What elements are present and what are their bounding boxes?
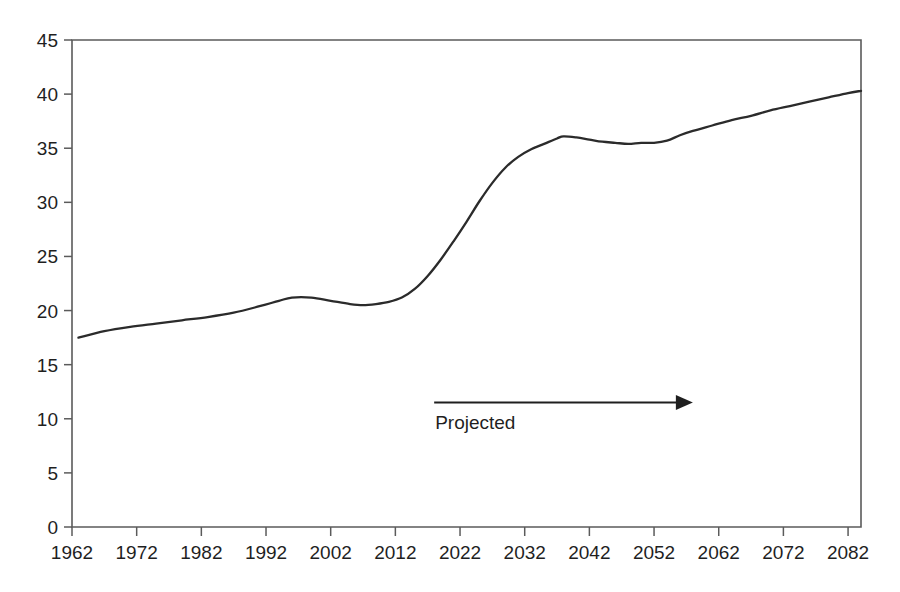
- y-tick-label: 45: [37, 30, 58, 51]
- y-tick-label: 10: [37, 409, 58, 430]
- chart-canvas: 051015202530354045 196219721982199220022…: [0, 0, 900, 592]
- y-tick-label: 40: [37, 84, 58, 105]
- x-tick-label: 2032: [504, 542, 546, 563]
- y-tick-label: 5: [47, 463, 58, 484]
- x-tick-label: 2022: [439, 542, 481, 563]
- projected-label: Projected: [435, 412, 515, 433]
- plot-background: [0, 0, 900, 592]
- x-tick-label: 2062: [698, 542, 740, 563]
- y-tick-label: 0: [47, 517, 58, 538]
- x-tick-label: 2072: [762, 542, 804, 563]
- y-tick-label: 25: [37, 246, 58, 267]
- x-tick-label: 1972: [116, 542, 158, 563]
- x-tick-label: 2042: [568, 542, 610, 563]
- x-tick-label: 2082: [827, 542, 869, 563]
- y-tick-label: 20: [37, 301, 58, 322]
- x-tick-label: 1992: [245, 542, 287, 563]
- x-tick-label: 2002: [310, 542, 352, 563]
- x-tick-label: 1962: [51, 542, 93, 563]
- x-tick-label: 2052: [633, 542, 675, 563]
- y-tick-label: 30: [37, 192, 58, 213]
- x-tick-label: 1982: [180, 542, 222, 563]
- y-tick-label: 35: [37, 138, 58, 159]
- y-tick-label: 15: [37, 355, 58, 376]
- line-chart: 051015202530354045 196219721982199220022…: [0, 0, 900, 592]
- x-tick-label: 2012: [374, 542, 416, 563]
